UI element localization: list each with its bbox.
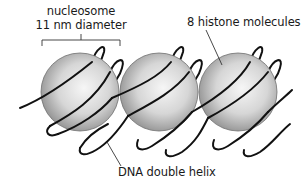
histone-label: 8 histone molecules [187,15,301,29]
nucleosome-diagram: nucleosome 11 nm diameter 8 histone mole… [0,0,306,179]
histone-leader-line [206,30,222,65]
nucleosome-label: nucleosome [47,4,116,18]
nucleosome-sphere-3 [199,53,277,131]
histone-cores [41,53,277,131]
nucleosome-sphere-1 [41,53,119,131]
dna-label: DNA double helix [118,165,216,179]
nucleosome-bracket [42,40,120,46]
nucleosome-diameter-label: 11 nm diameter [35,18,126,32]
dna-leader-line [107,142,121,166]
